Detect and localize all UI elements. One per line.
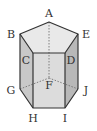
label-g: G: [7, 84, 16, 97]
label-h: H: [28, 112, 38, 125]
label-c: C: [22, 54, 30, 67]
label-i: I: [63, 112, 67, 125]
label-b: B: [7, 28, 15, 41]
label-d: D: [67, 54, 76, 67]
label-a: A: [44, 7, 54, 20]
label-f: F: [45, 79, 53, 92]
pentagonal-prism-diagram: A B C D E F G H I J: [0, 0, 97, 131]
label-e: E: [82, 28, 90, 41]
label-j: J: [83, 84, 88, 97]
